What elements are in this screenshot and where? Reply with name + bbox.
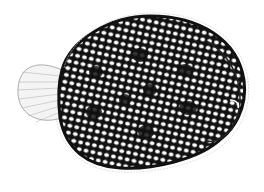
fish-illustration [0, 0, 264, 192]
fish-drawing [0, 0, 264, 192]
fish-body [59, 16, 245, 168]
tail-fin [18, 65, 62, 122]
